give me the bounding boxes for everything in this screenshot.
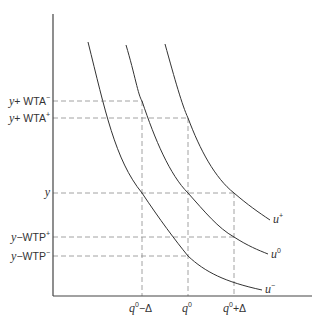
y-label-y-plus-wta-minus: y+ WTA−: [9, 95, 50, 107]
x-label-q0: q0: [182, 302, 192, 314]
curve-label-u-minus: u−: [265, 283, 275, 295]
x-label-q0-plus-delta: q0+Δ: [223, 302, 246, 314]
y-label-y-minus-wtp-plus: y−WTP+: [11, 231, 50, 243]
curve-u-zero: [126, 45, 268, 254]
y-label-y-plus-wta-plus: y+ WTA+: [9, 112, 50, 124]
curve-u-plus: [165, 44, 270, 220]
x-label-q0-minus-delta: q0−Δ: [129, 302, 152, 314]
indifference-curve-diagram: [0, 0, 320, 320]
dashed-guides: [53, 101, 234, 296]
y-label-y-minus-wtp-minus: y−WTP−: [11, 250, 50, 262]
indifference-curves: [88, 42, 270, 290]
y-label-y: y: [45, 186, 50, 198]
curve-label-u-plus: u+: [273, 213, 283, 225]
curve-label-u-zero: u0: [271, 248, 281, 260]
